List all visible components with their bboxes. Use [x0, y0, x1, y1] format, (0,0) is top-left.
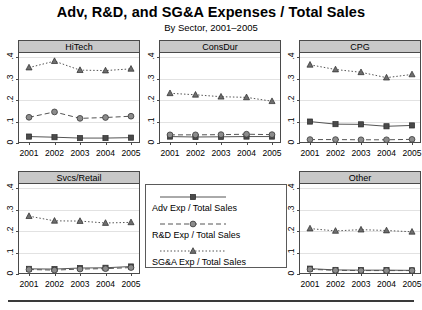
y-axis-label: .2	[286, 88, 296, 110]
legend-item: Adv Exp / Total Sales	[146, 185, 286, 214]
panel-cpg: CPG0.1.2.3.420012002200320042005	[281, 40, 422, 160]
legend-item: SG&A Exp / Total Sales	[146, 241, 286, 268]
y-axis-label: .1	[286, 110, 296, 132]
y-tick	[157, 143, 160, 144]
y-axis-label: .1	[146, 110, 156, 132]
panel-title: Other	[299, 171, 421, 184]
panel-title: CPG	[299, 40, 421, 53]
y-tick	[16, 143, 19, 144]
y-tick	[297, 274, 300, 275]
y-axis-label: .1	[5, 241, 15, 263]
x-axis-label: 2005	[397, 279, 422, 289]
legend-label: SG&A Exp / Total Sales	[146, 256, 286, 268]
panel-title: ConsDur	[159, 40, 281, 53]
legend-label: Adv Exp / Total Sales	[146, 202, 286, 214]
series-layer	[19, 184, 141, 274]
y-axis-label: .4	[286, 176, 296, 198]
y-axis-label: .2	[286, 219, 296, 241]
plot-area: 0.1.2.3.420012002200320042005	[299, 184, 421, 274]
plot-area: 0.1.2.3.420012002200320042005	[159, 53, 281, 143]
panel-title: HiTech	[18, 40, 140, 53]
panel-title: Svcs/Retail	[18, 171, 140, 184]
panel-other: Other0.1.2.3.420012002200320042005	[281, 171, 422, 291]
y-axis-label: .4	[286, 45, 296, 67]
legend-swatch-triangle	[156, 245, 230, 256]
y-axis-label: .3	[146, 67, 156, 89]
page-subtitle: By Sector, 2001–2005	[0, 22, 422, 33]
series-layer	[19, 53, 141, 143]
x-axis-label: 2005	[397, 148, 422, 158]
y-axis-label: .4	[5, 45, 15, 67]
plot-area: 0.1.2.3.420012002200320042005	[299, 53, 421, 143]
panel-svcs-retail: Svcs/Retail0.1.2.3.420012002200320042005	[0, 171, 142, 291]
panel-grid: HiTech0.1.2.3.420012002200320042005ConsD…	[0, 40, 422, 292]
y-axis-label: .3	[286, 67, 296, 89]
footer-divider	[8, 300, 414, 302]
series-layer	[160, 53, 282, 143]
y-tick	[16, 274, 19, 275]
y-axis-label: .3	[5, 198, 15, 220]
y-axis-label: .2	[5, 88, 15, 110]
y-axis-label: .3	[286, 198, 296, 220]
x-axis-label: 2005	[116, 279, 146, 289]
y-axis-label: .3	[5, 67, 15, 89]
panel-consdur: ConsDur0.1.2.3.420012002200320042005	[141, 40, 283, 160]
legend-label: R&D Exp / Total Sales	[146, 229, 286, 241]
y-axis-label: .2	[146, 88, 156, 110]
y-axis-label: .1	[5, 110, 15, 132]
y-axis-label: .2	[5, 219, 15, 241]
plot-area: 0.1.2.3.420012002200320042005	[18, 53, 140, 143]
legend-swatch-square	[156, 191, 230, 202]
legend-item: R&D Exp / Total Sales	[146, 214, 286, 241]
legend-swatch-circle	[156, 218, 230, 229]
y-axis-label: .4	[5, 176, 15, 198]
y-axis-label: .4	[146, 45, 156, 67]
series-layer	[300, 184, 422, 274]
y-tick	[297, 143, 300, 144]
legend: Adv Exp / Total Sales R&D Exp / Total Sa…	[145, 184, 287, 268]
plot-area: 0.1.2.3.420012002200320042005	[18, 184, 140, 274]
panel-hitech: HiTech0.1.2.3.420012002200320042005	[0, 40, 142, 160]
series-layer	[300, 53, 422, 143]
page-title: Adv, R&D, and SG&A Expenses / Total Sale…	[0, 3, 422, 21]
y-axis-label: .1	[286, 241, 296, 263]
